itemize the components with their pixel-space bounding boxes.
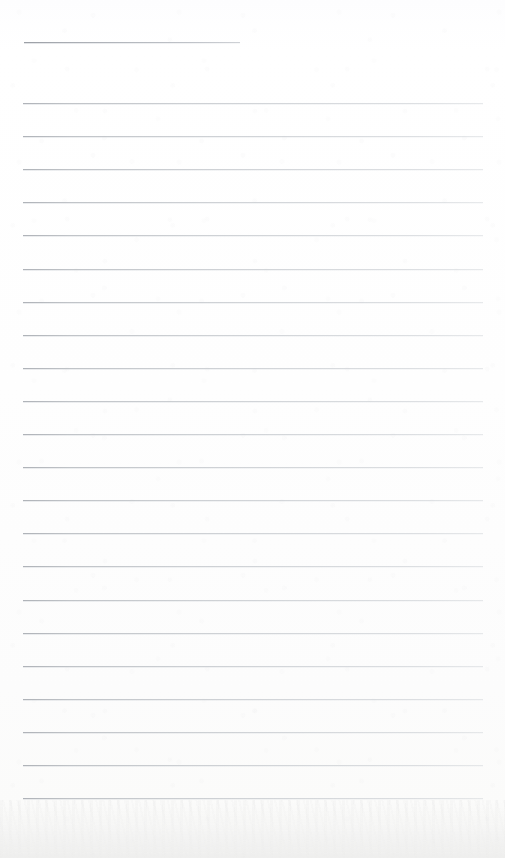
- ruled-lines-layer: [0, 0, 505, 858]
- rule-line: [23, 765, 483, 766]
- rule-line: [23, 335, 483, 336]
- rule-line: [23, 235, 483, 236]
- rule-line: [23, 600, 483, 601]
- rule-line: [23, 666, 483, 667]
- rule-line: [23, 467, 483, 468]
- rule-line: [23, 533, 483, 534]
- rule-line: [23, 633, 483, 634]
- rule-line: [23, 269, 483, 270]
- rule-line: [23, 566, 483, 567]
- rule-line: [23, 401, 483, 402]
- rule-line: [23, 302, 483, 303]
- rule-line: [23, 699, 483, 700]
- rule-line: [23, 136, 483, 137]
- rule-line: [23, 169, 483, 170]
- rule-line: [23, 732, 483, 733]
- rule-line: [23, 103, 483, 104]
- notepaper-page: [0, 0, 505, 858]
- rule-line: [23, 202, 483, 203]
- short-header-rule: [24, 42, 240, 43]
- rule-line: [23, 434, 483, 435]
- rule-line: [23, 368, 483, 369]
- rule-line: [23, 500, 483, 501]
- rule-line: [23, 798, 483, 799]
